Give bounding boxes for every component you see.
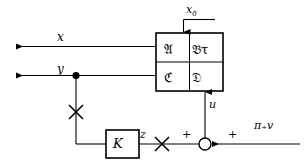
x0-input-line (184, 20, 216, 33)
sum-sign-left: + (182, 129, 191, 140)
controller-label-K: K (113, 137, 123, 150)
signal-label-disturbance: π₊v (254, 120, 273, 131)
summing-junction (199, 138, 211, 150)
feedback-path (76, 76, 106, 145)
signal-label-u: u (209, 99, 216, 110)
matrix-cell-b-tau: 𝔅τ (192, 43, 208, 56)
matrix-cell-c: ℭ (164, 71, 173, 84)
signal-label-z: z (140, 129, 146, 140)
matrix-cell-a: 𝔄 (164, 43, 173, 56)
scan-border (1, 1, 305, 166)
diagram-vector-layer (0, 0, 305, 166)
matrix-cell-d: 𝔇 (192, 71, 202, 84)
sum-sign-right: + (228, 129, 237, 140)
signal-label-x: x (57, 31, 64, 43)
x0-subscript: 0 (192, 10, 196, 18)
signal-label-y: y (57, 63, 64, 75)
signal-label-x0: x0 (186, 4, 197, 18)
block-diagram-canvas: x y x0 u z π₊v K 𝔄 𝔅τ ℭ 𝔇 + + (0, 0, 305, 166)
